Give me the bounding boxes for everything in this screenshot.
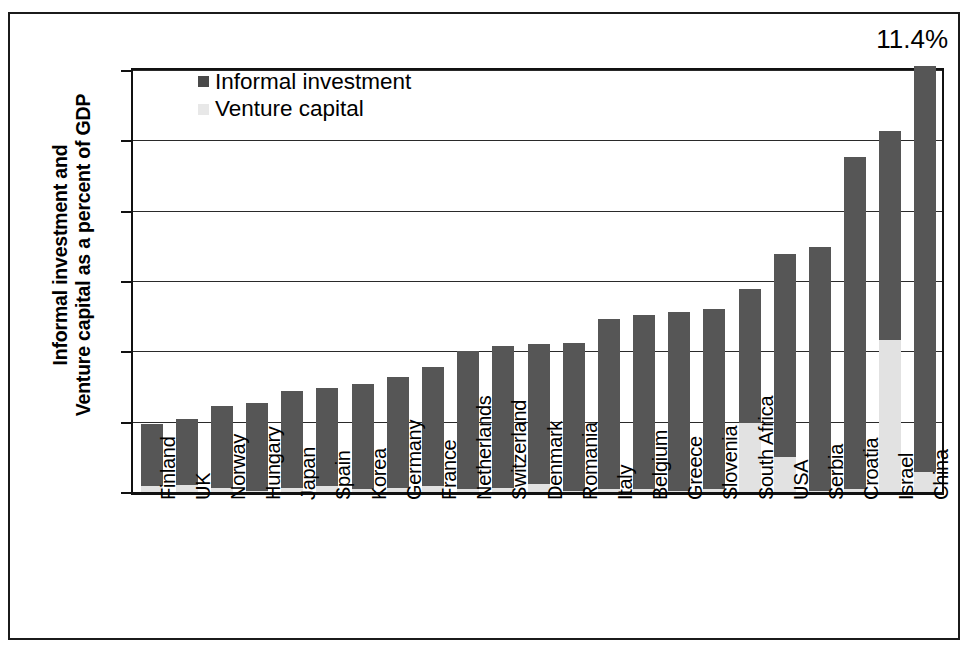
- legend-label: Informal investment: [215, 68, 411, 95]
- x-tick-label-norway: Norway: [227, 434, 250, 500]
- x-tick-label-south-africa: South Africa: [755, 396, 778, 500]
- china-value-annotation: 11.4%: [876, 24, 948, 55]
- x-tick-label-romania: Romania: [579, 422, 602, 500]
- bar-segment-informal-investment: [914, 66, 936, 473]
- bar-china[interactable]: [914, 66, 936, 492]
- x-tick-label-korea: Korea: [368, 448, 391, 500]
- gridline: [133, 211, 942, 212]
- legend-item-informal[interactable]: Informal investment: [198, 68, 411, 95]
- x-tick-label-belgium: Belgium: [649, 430, 672, 500]
- x-tick-label-uk: UK: [192, 473, 215, 500]
- x-tick-label-slovenia: Slovenia: [719, 426, 742, 500]
- x-tick-label-spain: Spain: [332, 450, 355, 500]
- legend-swatch-informal-icon: [198, 76, 209, 87]
- y-tick-mark: [121, 70, 131, 72]
- x-tick-label-hungary: Hungary: [262, 427, 285, 501]
- x-tick-label-france: France: [438, 440, 461, 500]
- x-tick-label-china: China: [930, 449, 953, 500]
- y-tick-mark: [121, 422, 131, 424]
- x-tick-label-germany: Germany: [403, 420, 426, 500]
- y-axis-title-line-2: Venture capital as a percent of GDP: [72, 35, 95, 475]
- y-tick-mark: [121, 492, 131, 494]
- x-tick-label-japan: Japan: [297, 447, 320, 500]
- chart-legend: Informal investmentVenture capital: [198, 68, 411, 123]
- x-tick-label-switzerland: Switzerland: [508, 400, 531, 500]
- y-tick-mark: [121, 211, 131, 213]
- chart-figure: Informal investment and Venture capital …: [0, 0, 972, 654]
- legend-swatch-vc-icon: [198, 104, 209, 115]
- x-tick-label-serbia: Serbia: [825, 444, 848, 500]
- x-tick-label-israel: Israel: [895, 453, 918, 500]
- x-tick-label-netherlands: Netherlands: [473, 395, 496, 500]
- legend-item-vc[interactable]: Venture capital: [198, 95, 411, 122]
- x-tick-label-denmark: Denmark: [544, 421, 567, 500]
- x-tick-label-finland: Finland: [157, 437, 180, 501]
- legend-label: Venture capital: [215, 95, 364, 122]
- y-tick-mark: [121, 140, 131, 142]
- x-tick-label-usa: USA: [790, 460, 813, 500]
- y-axis-title: Informal investment and Venture capital …: [49, 35, 95, 475]
- plot-area: 00.511.522.53: [131, 68, 944, 495]
- bar-segment-informal-investment: [879, 131, 901, 341]
- y-axis-title-line-1: Informal investment and: [49, 35, 72, 475]
- x-tick-label-greece: Greece: [684, 436, 707, 500]
- x-tick-label-italy: Italy: [614, 465, 637, 500]
- y-tick-mark: [121, 351, 131, 353]
- gridline: [133, 140, 942, 141]
- y-tick-mark: [121, 281, 131, 283]
- x-tick-label-croatia: Croatia: [860, 438, 883, 500]
